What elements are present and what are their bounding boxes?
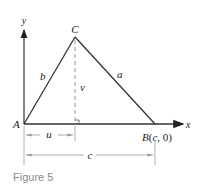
vertex-c-label: C [71,23,79,35]
height-v-label: v [80,81,85,93]
triangle-diagram: u c y x C A b a v B(c, 0) Figure 5 [0,0,197,187]
side-a [75,37,155,124]
vertex-b-label: B(c, 0) [142,131,172,144]
dimension-c-label: c [88,149,93,161]
vertex-a-label: A [12,118,20,130]
y-axis-label: y [21,15,27,26]
side-b [24,37,75,124]
side-a-label: a [117,68,123,80]
dimension-u-label: u [46,128,52,140]
side-b-label: b [40,70,46,82]
x-axis-label: x [185,119,191,130]
figure-caption: Figure 5 [13,171,53,183]
